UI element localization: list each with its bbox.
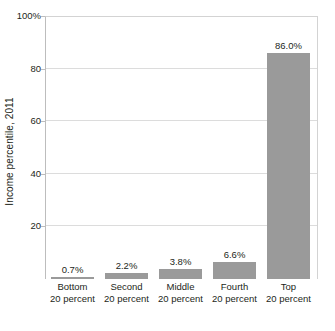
y-tick-label-80: 80 (0, 63, 41, 75)
bar-second-20-percent[interactable]: 2.2% (105, 16, 148, 279)
bar-value-label: 86.0% (253, 40, 324, 52)
bar-rect (105, 273, 148, 279)
bar-top-20-percent[interactable]: 86.0% (267, 16, 310, 279)
x-label-line1: Bottom (57, 281, 87, 292)
bars-layer: 0.7% 2.2% 3.8% 6.6% 86.0% (45, 16, 318, 279)
bar-fourth-20-percent[interactable]: 6.6% (213, 16, 256, 279)
y-tick-label-40: 40 (0, 168, 41, 180)
y-tick-label-60: 60 (0, 115, 41, 127)
bar-chart: Income percentile, 2011 100% 80 60 40 20… (0, 0, 335, 331)
x-label-top-20-percent: Top 20 percent (255, 281, 322, 304)
x-label-line1: Middle (167, 281, 195, 292)
bar-value-label: 6.6% (199, 249, 270, 261)
bar-rect (159, 269, 202, 279)
bar-rect (267, 53, 310, 279)
bar-bottom-20-percent[interactable]: 0.7% (51, 16, 94, 279)
x-label-line2: 20 percent (255, 293, 322, 305)
x-label-line1: Fourth (221, 281, 248, 292)
bar-middle-20-percent[interactable]: 3.8% (159, 16, 202, 279)
bar-rect (51, 277, 94, 279)
x-label-line1: Second (110, 281, 142, 292)
y-tick-label-100: 100% (0, 10, 41, 22)
x-label-line1: Top (281, 281, 296, 292)
y-tick-label-20: 20 (0, 220, 41, 232)
y-axis-title: Income percentile, 2011 (2, 14, 18, 289)
bar-rect (213, 262, 256, 279)
x-axis-labels: Bottom 20 percent Second 20 percent Midd… (45, 281, 318, 321)
